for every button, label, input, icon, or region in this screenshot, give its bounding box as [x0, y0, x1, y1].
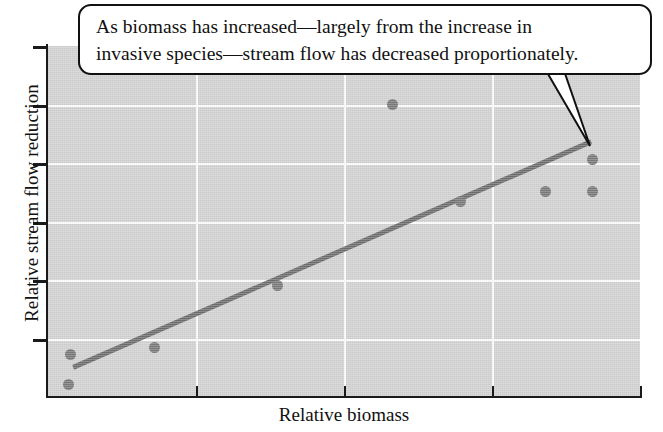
- y-axis-line: [46, 44, 48, 398]
- y-axis-label: Relative stream flow reduction: [21, 23, 43, 383]
- data-point: [587, 154, 598, 165]
- callout-text: As biomass has increased—largely from th…: [96, 13, 636, 67]
- x-axis-tick: [492, 386, 494, 398]
- figure-scatter-biomass-streamflow: Relative stream flow reduction Relative …: [0, 0, 663, 432]
- data-point: [65, 349, 76, 360]
- data-point: [587, 186, 598, 197]
- callout-line-2: invasive species—stream flow has decreas…: [96, 43, 579, 64]
- x-axis-tick: [640, 386, 642, 398]
- callout-box: As biomass has increased—largely from th…: [78, 4, 652, 75]
- trendline: [48, 46, 640, 396]
- x-axis-label: Relative biomass: [48, 404, 640, 426]
- x-axis-tick: [344, 386, 346, 398]
- data-point: [149, 342, 160, 353]
- plot-area: [48, 46, 640, 396]
- callout-line-1: As biomass has increased—largely from th…: [96, 16, 532, 37]
- x-axis-tick: [196, 386, 198, 398]
- data-point: [540, 186, 551, 197]
